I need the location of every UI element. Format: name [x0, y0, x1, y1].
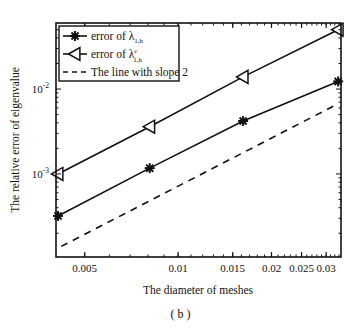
star-core — [148, 166, 152, 170]
triangle-marker — [237, 70, 248, 83]
star-core — [336, 79, 340, 83]
y-tick-label: 10-2 — [32, 81, 49, 95]
x-tick-label: 0.025 — [289, 262, 314, 274]
x-tick-label: 0.01 — [168, 262, 187, 274]
legend-label: The line with slope 2 — [91, 66, 188, 79]
x-axis-title: The diameter of meshes — [143, 284, 254, 296]
star-core — [73, 34, 77, 38]
legend: error of λ1,herror of λc1,hThe line with… — [59, 26, 188, 81]
star-core — [241, 119, 245, 123]
star-marker — [238, 116, 248, 126]
star-marker — [70, 31, 80, 41]
star-marker — [145, 163, 155, 173]
figure-caption: ( b ) — [0, 307, 361, 322]
y-axis-title: The relative error of eigenvalue — [9, 67, 22, 213]
star-marker — [53, 211, 63, 221]
x-tick-label: 0.02 — [262, 262, 281, 274]
triangle-marker — [143, 120, 154, 133]
x-tick-label: 0.015 — [220, 262, 245, 274]
x-tick-label: 0.03 — [317, 262, 337, 274]
series-line — [61, 104, 337, 246]
x-tick-label: 0.005 — [72, 262, 97, 274]
chart: 0.0050.010.0150.020.0250.0310-310-2 erro… — [0, 0, 361, 331]
y-tick-label: 10-3 — [32, 166, 49, 180]
